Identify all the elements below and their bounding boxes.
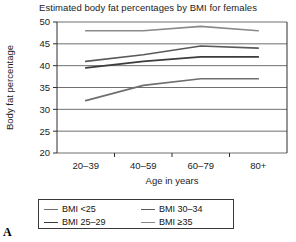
x-tick-label: 40–59: [130, 160, 156, 171]
series-lines-group: [86, 26, 259, 100]
gridlines-group: [57, 22, 287, 153]
y-tick-label: 25: [39, 126, 50, 137]
legend-label-bmi-25-29: BMI 25–29: [62, 217, 106, 228]
series-line: [86, 79, 259, 101]
y-tick-label: 30: [39, 104, 50, 115]
x-tick-label: 80+: [250, 160, 267, 171]
x-tick-label: 20–39: [73, 160, 99, 171]
legend-swatch-bmi-35-plus: [141, 222, 155, 223]
y-axis-ticks: 20253035404550: [39, 16, 57, 158]
y-tick-label: 40: [39, 60, 50, 71]
y-tick-label: 45: [39, 38, 50, 49]
legend-item: BMI ≥35: [141, 216, 203, 228]
legend-item: BMI 30–34: [141, 203, 203, 215]
legend-column-left: BMI <25 BMI 25–29: [44, 203, 106, 229]
series-line: [86, 26, 259, 30]
y-tick-label: 20: [39, 147, 50, 158]
legend-swatch-bmi-under-25: [44, 209, 58, 210]
x-axis-ticks: 20–3940–5960–7980+: [73, 153, 267, 171]
legend-label-bmi-under-25: BMI <25: [62, 204, 96, 215]
y-tick-label: 50: [39, 16, 50, 27]
legend-column-right: BMI 30–34 BMI ≥35: [141, 203, 203, 229]
legend-swatch-bmi-25-29: [44, 222, 58, 223]
legend-swatch-bmi-30-34: [141, 209, 155, 210]
chart-legend: BMI <25 BMI 25–29 BMI 30–34 BMI ≥35: [38, 199, 234, 229]
x-tick-label: 60–79: [188, 160, 214, 171]
y-axis-title: Body fat percentage: [4, 45, 15, 130]
legend-label-bmi-30-34: BMI 30–34: [159, 204, 203, 215]
figure-panel: Estimated body fat percentages by BMI fo…: [0, 0, 296, 242]
legend-item: BMI <25: [44, 203, 106, 215]
panel-label: A: [3, 225, 12, 240]
y-tick-label: 35: [39, 82, 50, 93]
x-axis-title: Age in years: [146, 175, 199, 186]
legend-item: BMI 25–29: [44, 216, 106, 228]
legend-label-bmi-35-plus: BMI ≥35: [159, 217, 192, 228]
